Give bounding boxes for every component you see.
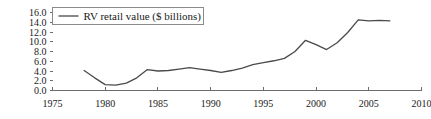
- chart-legend: RV retail value ($ billions): [53, 8, 204, 25]
- x-axis-ticks: 19751980198519901995200020052010: [43, 87, 431, 109]
- chart-container: 0.02.04.06.08.010.012.014.016.0 19751980…: [0, 0, 431, 119]
- x-tick-label: 1995: [253, 98, 273, 109]
- y-tick-label: 2.0: [34, 75, 47, 86]
- y-tick-label: 6.0: [34, 56, 47, 67]
- y-axis-ticks: 0.02.04.06.08.010.012.014.016.0: [29, 7, 53, 96]
- y-tick-label: 10.0: [29, 36, 47, 47]
- x-tick-label: 2010: [412, 98, 431, 109]
- x-tick-label: 1975: [43, 98, 63, 109]
- x-tick-label: 1985: [148, 98, 168, 109]
- y-tick-label: 14.0: [29, 17, 47, 28]
- y-tick-label: 4.0: [34, 66, 47, 77]
- y-tick-label: 0.0: [34, 85, 47, 96]
- data-series-line: [84, 20, 390, 85]
- y-tick-label: 12.0: [29, 27, 47, 38]
- x-tick-label: 1990: [201, 98, 221, 109]
- legend-label: RV retail value ($ billions): [84, 10, 202, 23]
- x-tick-label: 1980: [95, 98, 115, 109]
- y-tick-label: 16.0: [29, 7, 47, 18]
- y-tick-label: 8.0: [34, 46, 47, 57]
- x-tick-label: 2005: [359, 98, 379, 109]
- line-chart: 0.02.04.06.08.010.012.014.016.0 19751980…: [0, 0, 431, 119]
- x-tick-label: 2000: [306, 98, 326, 109]
